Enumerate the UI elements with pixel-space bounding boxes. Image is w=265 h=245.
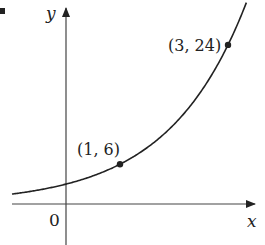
point-3-24-label: (3, 24) [168, 36, 221, 55]
figure-corner-mark [0, 8, 5, 14]
exponential-curve [12, 3, 246, 194]
exponential-graph-figure: y x 0 (1, 6) (3, 24) [0, 0, 265, 245]
x-axis-label: x [247, 211, 257, 231]
y-axis-label: y [45, 3, 56, 23]
point-1-6-label: (1, 6) [77, 140, 120, 159]
origin-label: 0 [49, 210, 60, 230]
point-3-24-marker [225, 42, 231, 48]
plot-area: y x 0 (1, 6) (3, 24) [0, 0, 265, 245]
point-1-6-marker [117, 161, 123, 167]
